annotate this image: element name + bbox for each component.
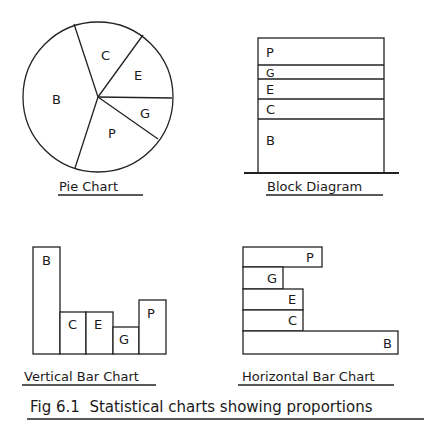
figure-caption: Fig 6.1 Statistical charts showing propo… — [27, 398, 424, 419]
block-segment-label-c: C — [266, 102, 275, 117]
pie-slice-label-p: P — [108, 126, 116, 141]
hbar-b — [243, 331, 398, 354]
hbar-label-b: B — [383, 336, 392, 351]
hbar-label-c: C — [288, 313, 297, 328]
vertical-bar-chart-title: Vertical Bar Chart — [24, 369, 139, 384]
pie-chart: B C E G P Pie Chart — [23, 22, 173, 195]
block-segment-label-e: E — [266, 82, 274, 97]
pie-slice-label-g: G — [140, 106, 150, 121]
figure-caption-text: Fig 6.1 Statistical charts showing propo… — [30, 398, 373, 416]
block-diagram-title: Block Diagram — [267, 179, 362, 194]
block-diagram: P G E C B Block Diagram — [244, 38, 399, 195]
hbar-label-g: G — [267, 271, 277, 286]
vbar-label-c: C — [68, 317, 77, 332]
pie-slice-label-e: E — [134, 68, 142, 83]
block-segment-label-b: B — [266, 133, 275, 148]
figure-canvas: B C E G P Pie Chart P G E C B Block Diag… — [0, 0, 429, 438]
vbar-label-p: P — [147, 306, 155, 321]
vbar-label-g: G — [119, 332, 129, 347]
pie-slice-label-c: C — [101, 48, 110, 63]
pie-chart-title: Pie Chart — [59, 179, 118, 194]
vbar-label-b: B — [42, 253, 51, 268]
vertical-bar-chart: B C E G P Vertical Bar Chart — [22, 247, 166, 385]
horizontal-bar-chart: P G E C B Horizontal Bar Chart — [238, 247, 398, 385]
hbar-label-e: E — [288, 292, 296, 307]
vbar-label-e: E — [94, 317, 102, 332]
pie-slice-label-b: B — [52, 92, 61, 107]
hbar-label-p: P — [306, 250, 314, 265]
block-outline — [258, 38, 384, 173]
block-segment-label-p: P — [266, 45, 274, 60]
block-segment-label-g: G — [266, 67, 275, 80]
horizontal-bar-chart-title: Horizontal Bar Chart — [242, 369, 375, 384]
